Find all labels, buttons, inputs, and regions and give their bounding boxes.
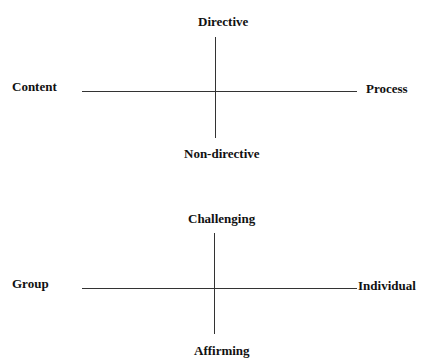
axis-label-bottom: Non-directive: [184, 147, 260, 161]
horizontal-axis: [82, 288, 357, 289]
axis-label-left: Group: [12, 277, 49, 291]
axis-label-top: Challenging: [188, 212, 255, 226]
axis-label-right: Process: [366, 82, 408, 96]
axis-label-top: Directive: [198, 15, 248, 29]
axis-label-right: Individual: [358, 279, 416, 293]
quadrant-diagram-directive: Directive Content Process Non-directive: [0, 0, 430, 181]
vertical-axis: [215, 37, 216, 138]
axis-label-bottom: Affirming: [194, 344, 250, 358]
quadrant-diagram-challenging: Challenging Group Individual Affirming: [0, 196, 430, 362]
horizontal-axis: [82, 91, 357, 92]
axis-label-left: Content: [12, 80, 57, 94]
vertical-axis: [214, 233, 215, 334]
